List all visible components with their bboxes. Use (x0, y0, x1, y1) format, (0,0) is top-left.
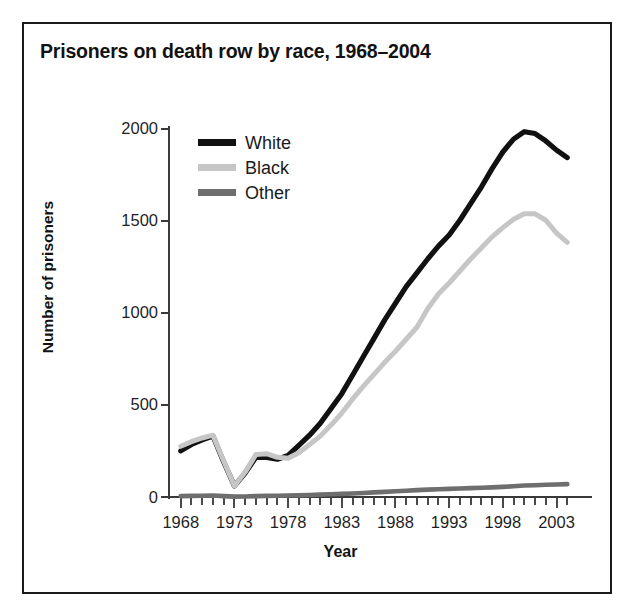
y-tick-mark-1500 (161, 220, 169, 222)
x-tick-label-1978: 1978 (270, 513, 307, 532)
x-tick-mark-1975 (255, 498, 257, 505)
x-tick-mark-1986 (373, 498, 375, 505)
x-tick-mark-1981 (319, 498, 321, 505)
y-tick-label-0: 0 (96, 488, 158, 507)
x-tick-mark-1995 (470, 498, 472, 505)
x-tick-mark-1983 (341, 498, 343, 508)
y-tick-label-2000: 2000 (96, 119, 158, 138)
x-tick-mark-1985 (362, 498, 364, 505)
x-tick-mark-1977 (276, 498, 278, 505)
x-tick-mark-1989 (405, 498, 407, 505)
x-tick-mark-1994 (459, 498, 461, 505)
x-tick-mark-1984 (352, 498, 354, 505)
x-tick-mark-2002 (545, 498, 547, 505)
x-tick-mark-1982 (330, 498, 332, 505)
x-tick-mark-1968 (180, 498, 182, 508)
x-tick-mark-1971 (212, 498, 214, 505)
x-tick-label-1968: 1968 (162, 513, 199, 532)
y-tick-label-1000: 1000 (96, 303, 158, 322)
x-tick-mark-1988 (394, 498, 396, 508)
y-tick-mark-500 (161, 404, 169, 406)
x-tick-mark-1991 (427, 498, 429, 505)
series-line-black (181, 214, 568, 486)
x-axis-title: Year (0, 543, 637, 561)
x-tick-mark-1999 (513, 498, 515, 505)
x-tick-mark-1997 (491, 498, 493, 505)
x-tick-mark-1974 (244, 498, 246, 505)
x-tick-label-1993: 1993 (431, 513, 468, 532)
x-tick-mark-1992 (437, 498, 439, 505)
y-axis-title: Number of prisoners (39, 177, 57, 377)
x-tick-mark-1976 (266, 498, 268, 505)
x-tick-mark-2000 (523, 498, 525, 505)
x-tick-mark-1973 (233, 498, 235, 508)
x-tick-mark-1978 (287, 498, 289, 508)
x-tick-mark-2003 (556, 498, 558, 508)
x-tick-label-1983: 1983 (323, 513, 360, 532)
x-axis-tick-labels: 19681973197819831988199319982003 (0, 513, 637, 537)
chart-figure: Prisoners on death row by race, 1968–200… (0, 0, 637, 615)
y-tick-label-1500: 1500 (96, 211, 158, 230)
x-tick-label-1988: 1988 (377, 513, 414, 532)
y-tick-label-500: 500 (96, 395, 158, 414)
y-tick-mark-2000 (161, 128, 169, 130)
x-tick-mark-1970 (201, 498, 203, 505)
y-tick-mark-1000 (161, 312, 169, 314)
x-axis-title-text: Year (324, 543, 358, 561)
x-tick-mark-1990 (416, 498, 418, 505)
x-tick-mark-2004 (566, 498, 568, 505)
series-lines (170, 128, 578, 497)
x-tick-mark-1993 (448, 498, 450, 508)
plot-area (170, 128, 578, 497)
x-tick-mark-1969 (190, 498, 192, 505)
x-tick-mark-1979 (298, 498, 300, 505)
x-tick-mark-1987 (384, 498, 386, 505)
series-line-other (181, 484, 568, 497)
x-tick-mark-2001 (534, 498, 536, 505)
x-tick-label-1998: 1998 (484, 513, 521, 532)
x-tick-label-2003: 2003 (538, 513, 575, 532)
x-tick-mark-1996 (480, 498, 482, 505)
x-tick-mark-1972 (223, 498, 225, 505)
x-tick-mark-1998 (502, 498, 504, 508)
series-line-white (181, 132, 568, 486)
x-tick-mark-1980 (309, 498, 311, 505)
x-tick-label-1973: 1973 (216, 513, 253, 532)
